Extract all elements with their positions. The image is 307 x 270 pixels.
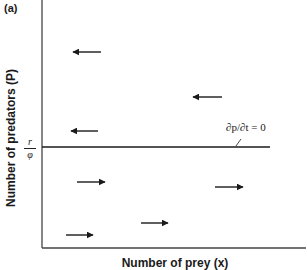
isocline-leader xyxy=(236,139,241,146)
direction-arrows xyxy=(66,52,243,235)
